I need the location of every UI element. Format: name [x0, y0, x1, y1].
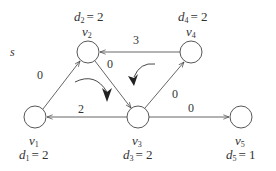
svg-text:v4: v4	[186, 24, 196, 40]
edge-v1-v2	[43, 61, 80, 109]
cycle-arrowhead-clockwise	[102, 88, 112, 102]
svg-text:d4= 2: d4= 2	[178, 9, 208, 25]
svg-text:d1= 2: d1= 2	[19, 147, 49, 163]
svg-text:d2= 2: d2= 2	[74, 9, 104, 25]
node-v4: v4 d4= 2	[178, 9, 208, 63]
weight-v2-v3: 0	[107, 57, 113, 71]
weight-v4-v2: 3	[133, 33, 139, 47]
weight-v1-v2: 0	[37, 68, 43, 82]
weight-v3-v4: 0	[172, 87, 178, 101]
cycle-arrow-clockwise-icon	[75, 79, 107, 92]
node-v3: v3 d3= 2	[123, 106, 153, 163]
weight-v3-v1: 2	[78, 102, 84, 116]
edge-v2-v3	[95, 61, 131, 108]
svg-text:d3= 2: d3= 2	[123, 147, 153, 163]
node-v5: v5 d5= 1	[226, 106, 256, 163]
cycle-arrowhead-counterclockwise	[128, 74, 138, 86]
node-v1: v1 d1= 2	[19, 106, 49, 163]
graph-diagram: s 0 0 3 0 2 0 v1 d1= 2 v2 d2= 2 v3 d3= 2…	[0, 0, 276, 171]
svg-text:v2: v2	[82, 24, 92, 40]
source-label: s	[10, 45, 15, 59]
edge-v3-v4	[145, 62, 184, 108]
node-v2: v2 d2= 2	[74, 9, 104, 63]
svg-text:d5= 1: d5= 1	[226, 147, 256, 163]
weight-v3-v5: 0	[188, 101, 194, 115]
